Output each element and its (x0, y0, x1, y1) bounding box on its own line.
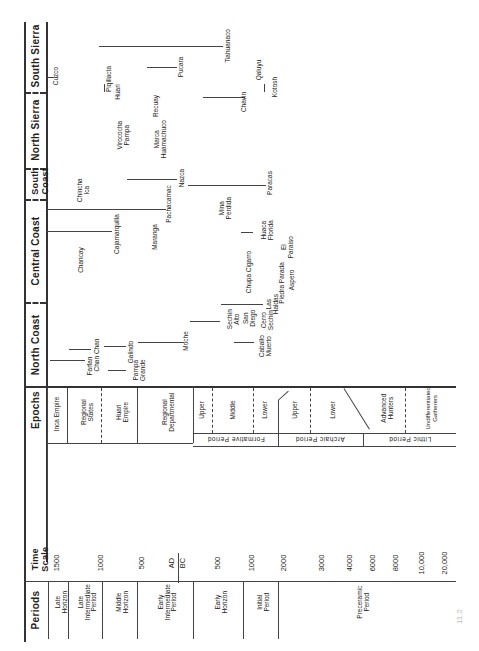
leader-pampa-grande (108, 370, 126, 371)
site-piqillacta: Piqillacta (106, 66, 113, 92)
period-early-intermediate-label: Early Intermediate Period (158, 581, 178, 623)
period-initial: Initial Period (250, 589, 270, 619)
site-caballo-muerto-label: Caballo Muerto (259, 333, 273, 359)
group-divider-archaic-lithic (363, 433, 364, 446)
epoch-groups-top-line (193, 433, 456, 434)
site-tiahuanaco: Tiahuanaco (225, 29, 232, 63)
leader-tiahuanaco (99, 46, 223, 47)
site-pucara: Pucara (178, 57, 185, 78)
period-early-horizon: Early Horizon (208, 588, 228, 620)
site-huaca-florida-label: Huaca Florida (261, 218, 275, 242)
epoch-inca-empire: Inca Empire (54, 397, 61, 432)
period-divider-5 (193, 581, 194, 639)
epoch-divider-advanced-undifferentiated (405, 388, 406, 433)
group-divider-formative-archaic (278, 433, 279, 446)
period-late-intermediate: Late Intermediate Period (71, 581, 98, 627)
site-kotosh: Kotosh (272, 77, 279, 97)
region-header-north-sierra: North Sierra (31, 99, 42, 160)
regions-bottom-divider (24, 386, 456, 388)
region-sep-south-north-sierra (25, 92, 46, 94)
region-header-central-coast: Central Coast (31, 217, 42, 286)
leader-las-haldas (221, 304, 263, 305)
epoch-formative-upper: Upper (199, 401, 206, 419)
epoch-huari-empire: Huari Empire (109, 399, 129, 429)
epoch-advanced-hunters-label: Advanced Hunters (381, 392, 395, 424)
formative-upper-slant (278, 391, 289, 401)
site-viracocha-pampa-label: Virococha Pampa (117, 118, 131, 152)
site-caballo-muerto: Caballo Muerto (252, 333, 272, 363)
site-huari: Huari (115, 84, 122, 100)
ad-bc-divider (178, 553, 179, 583)
epoch-undifferentiated-gatherers: Undifferentiated Gatherers (419, 386, 438, 433)
tick-6000: 6000 (369, 555, 377, 572)
group-archaic-period: Archaic Period (295, 436, 344, 443)
period-middle-horizon: Middle Horizon (109, 588, 129, 620)
leader-sechin-alto (190, 321, 220, 322)
leader-farfan (50, 360, 85, 361)
site-pampa-grande-label: Pampa Grande (133, 357, 147, 383)
site-nazca: Nazca (179, 169, 186, 187)
south-coast-label: South Coast (31, 167, 50, 195)
site-chan-chan: Chan Chan (94, 339, 101, 372)
site-aspero: Aspero (289, 270, 296, 291)
site-farfan: Farfan (87, 357, 94, 376)
group-formative-period: Formative Period (207, 436, 265, 443)
epoch-undifferentiated-gatherers-label: Undifferentiated Gatherers (425, 386, 438, 430)
epoch-archaic-upper: Upper (292, 401, 299, 419)
epoch-regional-states-label: Regional States (81, 397, 95, 427)
site-chincha-ica-label: Chincha Ica (77, 177, 91, 203)
tick-500-ad: 500 (138, 557, 146, 570)
site-cerro-sechin: Cerro Sechin (254, 308, 274, 336)
site-chancay: Chancay (78, 247, 85, 273)
epoch-divider-inca-regional (67, 388, 68, 443)
leader-pucara (147, 67, 177, 68)
epoch-huari-empire-label: Huari Empire (116, 399, 130, 425)
tick-qaluyu (264, 84, 265, 92)
leader-cajamarquilla (46, 231, 112, 232)
epoch-regional-states: Regional States (74, 397, 94, 431)
leader-pachacamac (46, 209, 166, 210)
epoch-archaic-lower: Lower (330, 401, 337, 419)
site-chincha-ica: Chincha Ica (70, 177, 90, 207)
tick-1000-bc: 1000 (248, 555, 256, 572)
leader-huaca-florida (241, 232, 253, 233)
tick-3000: 3000 (318, 555, 326, 572)
period-initial-label: Initial Period (257, 589, 271, 615)
tick-10000: 10,000 (418, 552, 426, 575)
site-chupa-cigarro: Chupa Cigarro (246, 251, 253, 293)
region-header-south-sierra: South Sierra (31, 24, 42, 87)
period-middle-horizon-label: Middle Horizon (116, 588, 130, 616)
tick-bc: BC (179, 558, 187, 568)
epoch-divider-huari-departmental (137, 388, 138, 443)
period-preceramic-label: Preceramic Period (357, 584, 371, 620)
site-paracas: Paracas (267, 171, 274, 195)
epoch-divider-departmental-formative (193, 386, 194, 443)
site-mina-perdida: Mina Perdida (212, 194, 232, 226)
tick-4000: 4000 (346, 555, 354, 572)
period-early-horizon-label: Early Horizon (215, 588, 229, 616)
tick-8000: 8000 (392, 555, 400, 572)
leader-galindo (104, 346, 126, 347)
periods-header: Periods (31, 591, 42, 630)
epoch-divider-upper-middle-formative (212, 388, 213, 433)
leader-chan-chan (69, 349, 91, 350)
tick-1500: 1500 (53, 555, 61, 572)
tick-2000: 2000 (280, 555, 288, 572)
period-preceramic: Preceramic Period (350, 584, 370, 624)
epochs-left-border (47, 388, 48, 558)
leader-paracas (188, 185, 266, 186)
site-el-paraiso: El Paraiso (274, 234, 294, 264)
period-divider-4 (137, 581, 138, 639)
site-pachacamac: Pachacamac (166, 185, 173, 223)
site-marca-huamachuco-label: Marca Huamachuco (154, 119, 168, 159)
period-divider-6 (243, 581, 244, 639)
epoch-formative-lower: Lower (262, 401, 269, 419)
site-huaca-florida: Huaca Florida (254, 218, 274, 246)
leader-moche (138, 342, 184, 343)
epoch-divider-middle-lower-formative (253, 388, 254, 433)
site-cuzco: Cuzco (53, 67, 60, 85)
site-moche: Moche (183, 331, 190, 351)
site-qaluyu: Qaluyu (256, 60, 263, 81)
leader-nazca (127, 179, 177, 180)
site-recuay: Recuay (153, 95, 160, 117)
